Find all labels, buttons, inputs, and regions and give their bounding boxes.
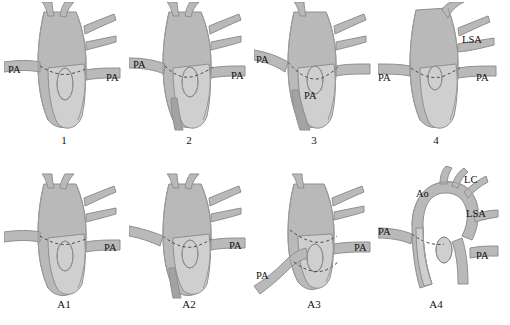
panel-4: 4 LSA PA PA <box>378 2 498 152</box>
panel-a2-label-pa-right: PA <box>229 240 241 251</box>
panel-2-caption: 2 <box>169 134 209 146</box>
panel-a3-drawing <box>254 166 374 316</box>
panel-2-label-pa-right: PA <box>231 70 243 81</box>
panel-3-drawing <box>254 2 374 152</box>
panel-a4-drawing <box>378 166 502 316</box>
panel-a4-label-pa-right: PA <box>476 250 488 261</box>
panel-4-label-lsa: LSA <box>462 34 482 45</box>
panel-a3: A3 PA PA <box>254 166 374 316</box>
panel-a4: A4 LC Ao LSA PA PA <box>378 166 498 316</box>
panel-a1-label-pa-right: PA <box>104 242 116 253</box>
panel-4-label-pa-right: PA <box>476 72 488 83</box>
panel-4-label-pa-left: PA <box>378 72 390 83</box>
panel-2-label-pa-left: PA <box>133 59 145 70</box>
panel-1-caption: 1 <box>44 134 84 146</box>
panel-a4-caption: A4 <box>416 298 456 310</box>
panel-a3-label-pa-lower-left: PA <box>256 270 268 281</box>
panel-3: 3 PA PA <box>254 2 374 152</box>
panel-a4-label-lc: LC <box>464 174 477 185</box>
panel-3-label-pa-left: PA <box>256 54 268 65</box>
panel-a3-label-pa-right: PA <box>354 242 366 253</box>
panel-1-label-pa-left: PA <box>8 64 20 75</box>
panel-a3-caption: A3 <box>294 298 334 310</box>
panel-1-label-pa-right: PA <box>106 72 118 83</box>
figure-sheet: 1 PA PA 2 PA PA <box>0 0 510 325</box>
panel-3-caption: 3 <box>294 134 334 146</box>
panel-2: 2 PA PA <box>129 2 249 152</box>
panel-1: 1 PA PA <box>4 2 124 152</box>
panel-a1-caption: A1 <box>44 298 84 310</box>
panel-a4-label-lsa: LSA <box>466 208 486 219</box>
panel-a1-drawing <box>4 166 124 316</box>
panel-a1: A1 PA <box>4 166 124 316</box>
panel-a2: A2 PA <box>129 166 249 316</box>
panel-4-caption: 4 <box>416 134 456 146</box>
panel-a4-label-pa-left: PA <box>378 226 390 237</box>
panel-a2-caption: A2 <box>169 298 209 310</box>
panel-3-label-pa-lower: PA <box>304 90 316 101</box>
panel-a4-label-ao: Ao <box>416 188 429 199</box>
